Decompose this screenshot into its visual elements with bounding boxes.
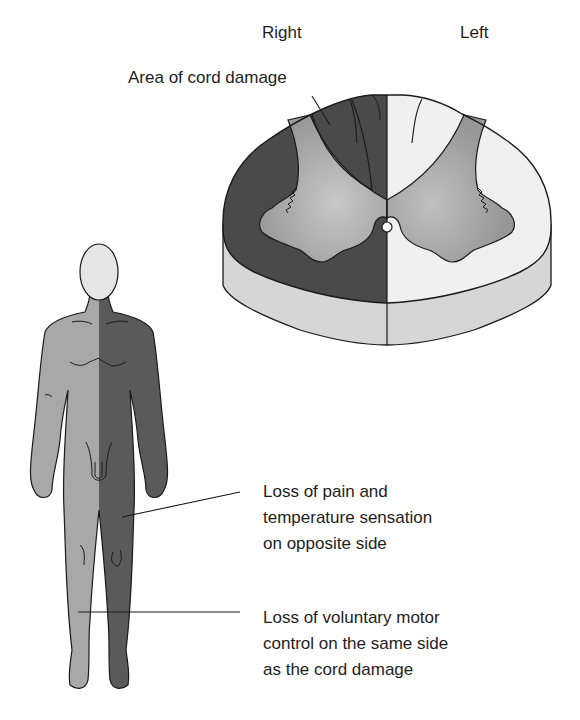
left-side-label: Left [460, 20, 488, 46]
cord-damage-label: Area of cord damage [128, 65, 287, 91]
head [80, 244, 118, 300]
central-canal [382, 222, 392, 232]
spinal-cord-section [223, 95, 551, 345]
pain-temperature-label: Loss of pain and temperature sensation o… [263, 479, 432, 557]
motor-control-label: Loss of voluntary motor control on the s… [263, 605, 448, 683]
right-side-label: Right [262, 20, 302, 46]
human-figure [30, 244, 240, 688]
pain-temperature-leader [122, 492, 240, 517]
